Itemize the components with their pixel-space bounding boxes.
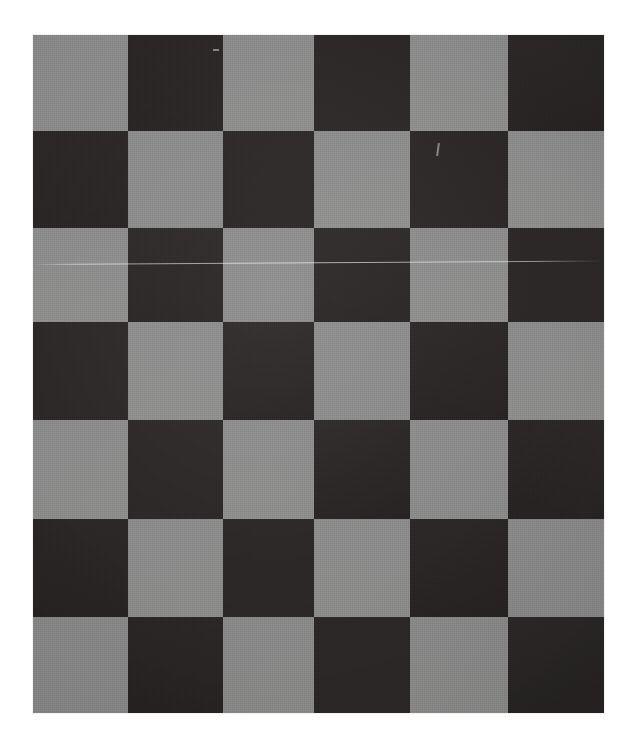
checkerboard-square <box>410 519 508 617</box>
checkerboard-square <box>314 420 410 519</box>
checkerboard-square <box>508 131 604 228</box>
checkerboard-square <box>33 420 128 519</box>
checkerboard-square <box>508 519 604 617</box>
checkerboard-square <box>33 617 128 713</box>
checkerboard-square <box>314 617 410 713</box>
checkerboard-square <box>410 322 508 420</box>
checkerboard-square <box>223 35 314 131</box>
checkerboard-square <box>223 519 314 617</box>
checkerboard-square <box>128 322 223 420</box>
checkerboard-square <box>508 617 604 713</box>
checkerboard-square <box>128 228 223 322</box>
checkerboard-square <box>128 420 223 519</box>
checkerboard-square <box>33 519 128 617</box>
checkerboard-square <box>410 35 508 131</box>
checkerboard-square <box>128 519 223 617</box>
checkerboard-square <box>314 35 410 131</box>
checkerboard-square <box>128 35 223 131</box>
checkerboard-square <box>410 617 508 713</box>
checkerboard-square <box>410 420 508 519</box>
checkerboard-square <box>223 617 314 713</box>
checkerboard-square <box>33 228 128 322</box>
checkerboard-square <box>223 420 314 519</box>
checkerboard-square <box>508 420 604 519</box>
checkerboard-square <box>410 131 508 228</box>
checkerboard-square <box>128 131 223 228</box>
checkerboard-square <box>223 228 314 322</box>
checkerboard-square <box>314 519 410 617</box>
checkerboard-square <box>508 322 604 420</box>
checkerboard <box>33 35 604 713</box>
checkerboard-square <box>223 322 314 420</box>
checkerboard-square <box>33 131 128 228</box>
image-canvas <box>0 0 637 751</box>
checkerboard-square <box>128 617 223 713</box>
checkerboard-square <box>33 322 128 420</box>
checkerboard-square <box>314 131 410 228</box>
checkerboard-square <box>410 228 508 322</box>
checkerboard-square <box>33 35 128 131</box>
checkerboard-square <box>314 322 410 420</box>
checkerboard-square <box>223 131 314 228</box>
checkerboard-square <box>314 228 410 322</box>
checkerboard-square <box>508 35 604 131</box>
checkerboard-square <box>508 228 604 322</box>
